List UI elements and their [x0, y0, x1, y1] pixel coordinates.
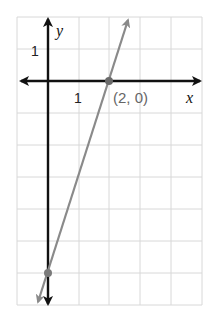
y-tick-label: 1 [31, 43, 39, 59]
x-tick-label: 1 [74, 90, 82, 106]
coordinate-plane: y x 1 1 (2, 0) [0, 0, 215, 318]
point-y-intercept [44, 269, 52, 277]
grid [17, 17, 202, 305]
function-line [38, 20, 128, 302]
point-label: (2, 0) [113, 89, 148, 106]
point-x-intercept [105, 77, 113, 85]
x-axis-label: x [185, 89, 193, 106]
y-axis-label: y [54, 22, 64, 40]
